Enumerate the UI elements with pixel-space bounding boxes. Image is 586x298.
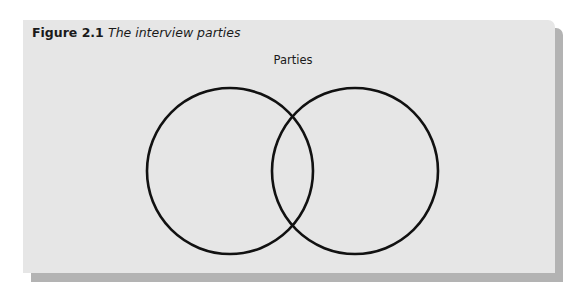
figure-panel: Figure 2.1The interview parties Parties <box>23 20 555 273</box>
venn-label: Parties <box>274 53 313 67</box>
venn-circle-right <box>272 88 438 254</box>
venn-circle-left <box>147 88 313 254</box>
venn-diagram: Parties <box>23 20 555 273</box>
